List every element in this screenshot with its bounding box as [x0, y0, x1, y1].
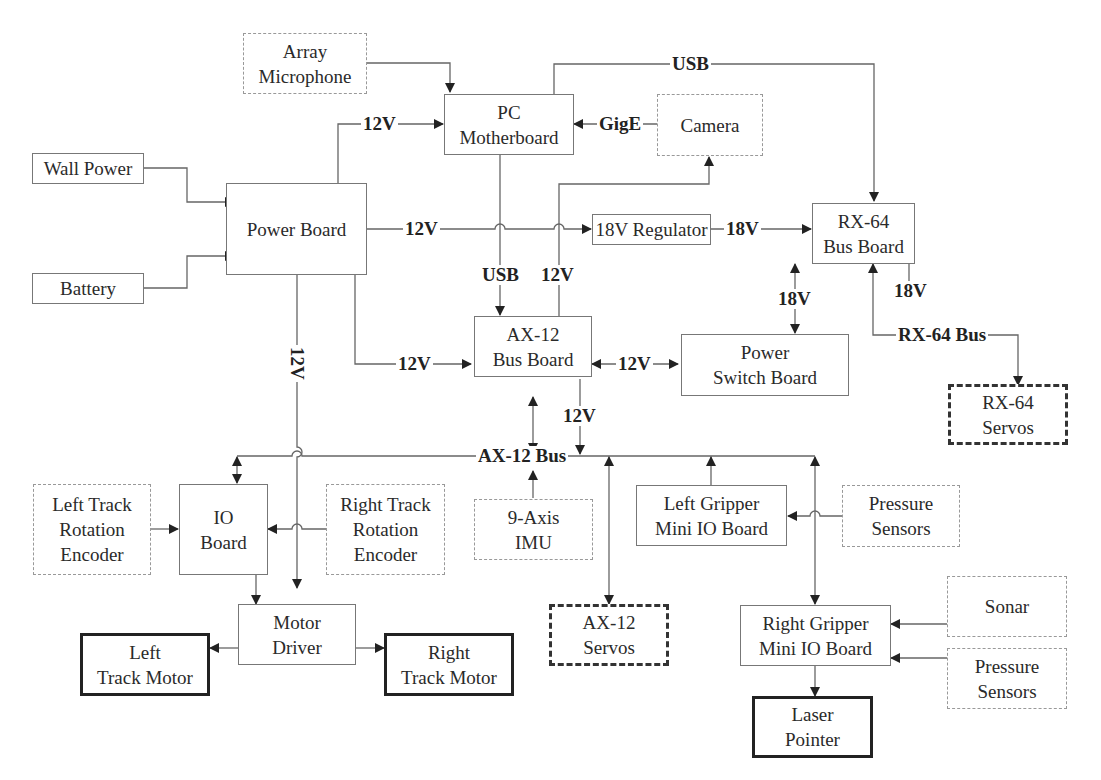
node-camera: Camera: [657, 94, 763, 156]
edge-label-12v-switch: 12V: [616, 354, 653, 374]
node-label: AX-12 Bus Board: [493, 322, 574, 372]
edge-label-12v-axbus: 12V: [561, 406, 598, 426]
edge-label-usb-top: USB: [670, 54, 711, 74]
edge-label-12v-pc: 12V: [361, 114, 398, 134]
edge-label-ax12-bus: AX-12 Bus: [476, 446, 568, 466]
node-pressure-sensors-2: Pressure Sensors: [947, 648, 1067, 709]
node-label: Pressure Sensors: [869, 491, 933, 541]
node-label: Power Board: [247, 217, 347, 242]
node-right-track-encoder: Right Track Rotation Encoder: [326, 484, 445, 575]
edge-label-12v-reg: 12V: [403, 219, 440, 239]
node-rx64-bus-board: RX-64 Bus Board: [812, 203, 915, 264]
node-ax12-servos: AX-12 Servos: [549, 604, 669, 666]
edge-label-usb-ax12: USB: [480, 265, 521, 285]
node-ax12-bus-board: AX-12 Bus Board: [474, 316, 592, 377]
node-label: Left Track Rotation Encoder: [52, 492, 132, 567]
node-sonar: Sonar: [947, 576, 1067, 637]
node-label: Sonar: [985, 594, 1029, 619]
edge-label-rx64-bus: RX-64 Bus: [896, 325, 988, 345]
node-label: Power Switch Board: [713, 340, 817, 390]
node-array-microphone: Array Microphone: [243, 33, 367, 94]
node-rx64-servos: RX-64 Servos: [948, 384, 1068, 445]
edge-label-18v-rxbus: 18V: [892, 281, 929, 301]
node-motor-driver: Motor Driver: [238, 604, 356, 665]
node-label: Motor Driver: [272, 610, 322, 660]
node-left-track-encoder: Left Track Rotation Encoder: [33, 484, 151, 575]
node-left-track-motor: Left Track Motor: [80, 633, 210, 696]
wire-12v-reg: [366, 224, 591, 229]
node-left-gripper-io: Left Gripper Mini IO Board: [636, 485, 787, 546]
node-label: RX-64 Bus Board: [823, 209, 904, 259]
edge-label-12v-ax12: 12V: [396, 354, 433, 374]
node-label: Left Gripper Mini IO Board: [655, 491, 768, 541]
wire-battery: [144, 256, 234, 288]
node-label: 9-Axis IMU: [508, 505, 560, 555]
node-label: Right Gripper Mini IO Board: [759, 611, 872, 661]
node-label: Right Track Rotation Encoder: [340, 492, 430, 567]
node-9-axis-imu: 9-Axis IMU: [474, 499, 593, 560]
node-label: 18V Regulator: [595, 217, 707, 242]
node-label: IO Board: [200, 505, 246, 555]
node-label: RX-64 Servos: [982, 390, 1034, 440]
node-pressure-sensors-1: Pressure Sensors: [842, 485, 960, 547]
node-right-gripper-io: Right Gripper Mini IO Board: [740, 605, 891, 666]
wire-mic-pc: [366, 63, 450, 92]
edge-label-12v-vertical: 12V: [287, 345, 307, 382]
node-label: PC Motherboard: [459, 100, 558, 150]
node-18v-regulator: 18V Regulator: [592, 214, 711, 245]
edge-label-18v-reg: 18V: [724, 219, 761, 239]
node-label: Pressure Sensors: [975, 654, 1039, 704]
node-label: Camera: [680, 113, 739, 138]
wire-wall: [144, 168, 234, 202]
node-power-switch-board: Power Switch Board: [681, 334, 849, 396]
node-label: Wall Power: [44, 156, 133, 181]
node-laser-pointer: Laser Pointer: [752, 696, 873, 758]
node-label: Battery: [60, 276, 116, 301]
node-label: Right Track Motor: [401, 640, 497, 690]
node-label: AX-12 Servos: [583, 610, 636, 660]
node-io-board: IO Board: [179, 484, 268, 575]
node-power-board: Power Board: [226, 183, 367, 275]
node-pc-motherboard: PC Motherboard: [444, 94, 574, 155]
edge-label-gige: GigE: [597, 114, 643, 134]
edge-label-12v-cam: 12V: [539, 265, 576, 285]
edge-label-18v-switch: 18V: [776, 289, 813, 309]
node-right-track-motor: Right Track Motor: [384, 633, 514, 696]
node-label: Array Microphone: [259, 39, 352, 89]
wire-12v-down: [297, 274, 302, 588]
node-label: Laser Pointer: [785, 702, 840, 752]
wire-12v-ax12: [355, 274, 471, 364]
node-label: Left Track Motor: [97, 640, 193, 690]
node-wall-power: Wall Power: [32, 153, 144, 184]
node-battery: Battery: [32, 273, 144, 304]
